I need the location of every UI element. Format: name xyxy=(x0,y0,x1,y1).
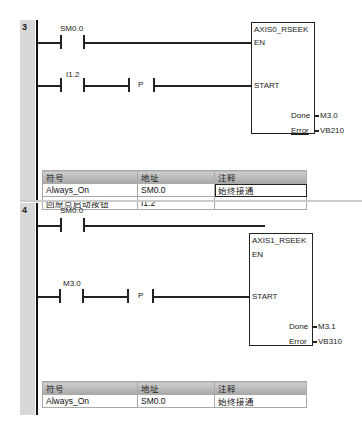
wire xyxy=(83,296,128,298)
symbol-table: 符号 地址 注释 Always_On SM0.0 始终接通 回原点启动按钮 I1… xyxy=(42,170,307,210)
pin-error: Error xyxy=(289,337,307,346)
cell-comment[interactable] xyxy=(215,197,307,210)
header-symbol: 符号 xyxy=(43,382,138,395)
header-address: 地址 xyxy=(138,382,215,395)
cell-comment[interactable]: 始终接通 xyxy=(215,395,307,408)
edge-p-label: P xyxy=(138,80,143,89)
header-symbol: 符号 xyxy=(43,171,138,184)
wire xyxy=(314,130,319,132)
wire xyxy=(154,85,265,87)
wire xyxy=(38,42,60,44)
power-rail xyxy=(36,20,38,200)
wire xyxy=(312,326,317,328)
contact-address: M3.0 xyxy=(63,279,81,288)
wire xyxy=(38,296,60,298)
cell-address[interactable]: SM0.0 xyxy=(138,395,215,408)
contact-m3-0[interactable] xyxy=(59,289,61,303)
wire xyxy=(84,225,265,227)
done-address: M3.0 xyxy=(320,111,338,120)
cell-address[interactable]: I1.2 xyxy=(138,197,215,210)
header-comment: 注释 xyxy=(215,382,307,395)
cell-symbol[interactable]: Always_On xyxy=(43,395,138,408)
contact-address: SM0.0 xyxy=(60,206,83,215)
edge-p-contact[interactable] xyxy=(128,78,130,92)
cell-comment[interactable]: 始终接通 xyxy=(215,184,307,197)
pin-en: EN xyxy=(254,38,265,47)
table-row[interactable]: Always_On SM0.0 始终接通 xyxy=(43,395,307,408)
block-title: AXIS0_RSEEK xyxy=(254,25,308,34)
table-row[interactable]: Always_On SM0.0 始终接通 xyxy=(43,184,307,197)
contact-address: I1.2 xyxy=(66,70,79,79)
pin-done: Done xyxy=(289,322,308,331)
error-address: VB210 xyxy=(320,126,344,135)
power-rail xyxy=(36,203,38,415)
pin-done: Done xyxy=(291,111,310,120)
network-number: 3 xyxy=(22,22,27,32)
pin-error: Error xyxy=(291,126,309,135)
wire xyxy=(38,85,60,87)
block-title: AXIS1_RSEEK xyxy=(252,236,306,245)
contact-address: SM0.0 xyxy=(60,24,83,33)
cell-address[interactable]: SM0.0 xyxy=(138,184,215,197)
header-comment: 注释 xyxy=(215,171,307,184)
cell-symbol[interactable]: Always_On xyxy=(43,184,138,197)
edge-p-label: P xyxy=(138,291,143,300)
wire xyxy=(38,225,60,227)
header-address: 地址 xyxy=(138,171,215,184)
edge-p-contact[interactable] xyxy=(127,289,129,303)
error-address: VB310 xyxy=(318,337,342,346)
pin-start: START xyxy=(254,81,279,90)
contact-i1-2[interactable] xyxy=(60,78,62,92)
wire xyxy=(84,42,265,44)
wire xyxy=(312,341,317,343)
network-number: 4 xyxy=(22,205,27,215)
wire xyxy=(314,115,319,117)
contact-sm0-0[interactable] xyxy=(60,218,62,232)
wire xyxy=(84,85,129,87)
symbol-table: 符号 地址 注释 Always_On SM0.0 始终接通 xyxy=(42,381,307,408)
pin-en: EN xyxy=(252,250,263,259)
done-address: M3.1 xyxy=(318,322,336,331)
cell-symbol[interactable]: 回原点启动按钮 xyxy=(43,197,138,210)
contact-sm0-0[interactable] xyxy=(60,35,62,49)
network-gutter xyxy=(20,20,35,200)
network-gutter xyxy=(20,203,35,415)
network-separator xyxy=(20,200,362,202)
pin-start: START xyxy=(252,292,277,301)
